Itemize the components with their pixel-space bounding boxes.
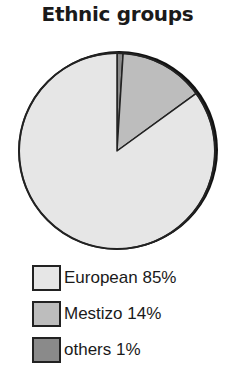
legend-item-others: others 1% bbox=[32, 337, 141, 363]
legend-swatch-others bbox=[32, 337, 61, 363]
legend-swatch-european bbox=[32, 265, 61, 291]
legend-label-european: European 85% bbox=[64, 268, 176, 288]
legend-item-european: European 85% bbox=[32, 265, 176, 291]
legend-label-others: others 1% bbox=[64, 340, 141, 360]
legend-swatch-mestizo bbox=[32, 301, 61, 327]
legend-label-mestizo: Mestizo 14% bbox=[64, 304, 161, 324]
pie-chart bbox=[0, 0, 235, 260]
legend-item-mestizo: Mestizo 14% bbox=[32, 301, 161, 327]
